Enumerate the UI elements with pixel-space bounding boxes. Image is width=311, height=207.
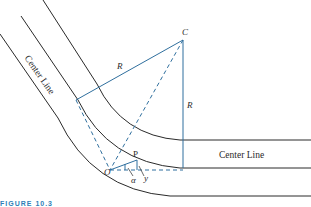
road-outer-edge — [0, 34, 311, 196]
curve-diagram — [0, 0, 311, 207]
figure-caption: FIGURE 10.3 — [0, 200, 53, 207]
line-o-to-p — [110, 160, 137, 170]
radius-upper-label: R — [117, 62, 123, 71]
angle-alpha-label: α — [131, 176, 136, 185]
radius-vertical-label: R — [187, 101, 193, 110]
radius-line-upper — [76, 40, 183, 100]
chord-dashed-c-to-o — [110, 40, 183, 170]
dashed-left-to-o — [76, 100, 110, 170]
offset-y-label: y — [144, 174, 148, 183]
point-p-label: P — [133, 150, 138, 159]
point-c-label: C — [182, 28, 188, 37]
center-line-horizontal-label: Center Line — [219, 151, 264, 161]
point-o-label: O — [104, 168, 111, 177]
road-inner-edge — [43, 0, 311, 140]
road-center-line — [21, 16, 311, 168]
